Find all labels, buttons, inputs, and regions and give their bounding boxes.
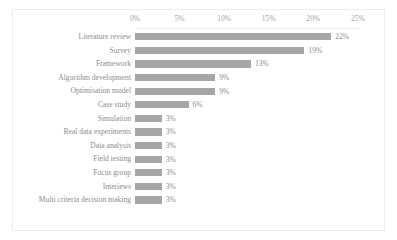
bar-row: Multi criteria decision making3% bbox=[0, 193, 397, 207]
bar-row: Simulation3% bbox=[0, 112, 397, 126]
bar-value-label: 3% bbox=[166, 195, 176, 204]
bar-row: Survey19% bbox=[0, 44, 397, 58]
bar-with-value: 13% bbox=[135, 57, 269, 71]
bar-with-value: 9% bbox=[135, 71, 229, 85]
bar bbox=[135, 196, 162, 203]
bar-row: Focus group3% bbox=[0, 166, 397, 180]
bar-row: Literature review22% bbox=[0, 30, 397, 44]
bar bbox=[135, 156, 162, 163]
bar-row: Data analysis3% bbox=[0, 139, 397, 153]
bar bbox=[135, 60, 251, 67]
category-label: Case study bbox=[98, 98, 135, 112]
bar-rows: Literature review22%Survey19%Framework13… bbox=[0, 30, 397, 220]
x-axis-tick-0pct: 0% bbox=[130, 14, 140, 24]
x-axis-tick-5pct: 5% bbox=[174, 14, 184, 24]
bar-value-label: 13% bbox=[255, 59, 269, 68]
bar-value-label: 19% bbox=[308, 46, 322, 55]
bar-row: Field testing3% bbox=[0, 152, 397, 166]
category-label: Survey bbox=[109, 44, 135, 58]
bar-with-value: 3% bbox=[135, 193, 176, 207]
bar-value-label: 3% bbox=[166, 114, 176, 123]
bar-with-value: 19% bbox=[135, 44, 322, 58]
bar bbox=[135, 74, 215, 81]
bar-value-label: 9% bbox=[219, 87, 229, 96]
category-label: Data analysis bbox=[90, 139, 135, 153]
bar bbox=[135, 115, 162, 122]
bar-with-value: 3% bbox=[135, 166, 176, 180]
bar bbox=[135, 128, 162, 135]
category-label: Literature review bbox=[79, 30, 136, 44]
x-axis-tick-10pct: 10% bbox=[217, 14, 231, 24]
bar bbox=[135, 183, 162, 190]
bar-with-value: 3% bbox=[135, 112, 176, 126]
bar-row: Case study6% bbox=[0, 98, 397, 112]
axis-rule bbox=[135, 28, 359, 29]
bar-with-value: 3% bbox=[135, 180, 176, 194]
x-axis-tick-labels: 0%5%10%15%20%25% bbox=[0, 14, 397, 26]
bar-row: Interiews3% bbox=[0, 180, 397, 194]
bar-with-value: 3% bbox=[135, 152, 176, 166]
bar bbox=[135, 142, 162, 149]
category-label: Optimisation model bbox=[70, 84, 135, 98]
category-label: Focus group bbox=[93, 166, 135, 180]
bar-with-value: 22% bbox=[135, 30, 349, 44]
bar bbox=[135, 101, 189, 108]
bar-row: Algorithm development9% bbox=[0, 71, 397, 85]
bar-value-label: 3% bbox=[166, 155, 176, 164]
bar-value-label: 9% bbox=[219, 73, 229, 82]
bar-row: Optimisation model9% bbox=[0, 84, 397, 98]
category-label: Real data experiments bbox=[64, 125, 135, 139]
bar-value-label: 22% bbox=[335, 32, 349, 41]
bar bbox=[135, 169, 162, 176]
bar-row: Real data experiments3% bbox=[0, 125, 397, 139]
bar-with-value: 3% bbox=[135, 139, 176, 153]
category-label: Simulation bbox=[98, 112, 135, 126]
bar-value-label: 3% bbox=[166, 127, 176, 136]
x-axis-tick-20pct: 20% bbox=[306, 14, 320, 24]
category-label: Interiews bbox=[103, 180, 135, 194]
bar-value-label: 3% bbox=[166, 141, 176, 150]
bar-value-label: 3% bbox=[166, 182, 176, 191]
bar-with-value: 3% bbox=[135, 125, 176, 139]
bar-row: Framework13% bbox=[0, 57, 397, 71]
bar bbox=[135, 33, 331, 40]
bar bbox=[135, 88, 215, 95]
category-label: Field testing bbox=[93, 152, 135, 166]
bar-value-label: 6% bbox=[193, 100, 203, 109]
x-axis-tick-25pct: 25% bbox=[351, 14, 365, 24]
x-axis-tick-15pct: 15% bbox=[262, 14, 276, 24]
category-label: Multi criteria decision making bbox=[39, 193, 135, 207]
bar-with-value: 9% bbox=[135, 84, 229, 98]
bar bbox=[135, 47, 304, 54]
category-label: Algorithm development bbox=[58, 71, 135, 85]
bar-value-label: 3% bbox=[166, 168, 176, 177]
category-label: Framework bbox=[96, 57, 135, 71]
bar-with-value: 6% bbox=[135, 98, 203, 112]
bar-chart: 0%5%10%15%20%25% Literature review22%Sur… bbox=[0, 0, 397, 240]
